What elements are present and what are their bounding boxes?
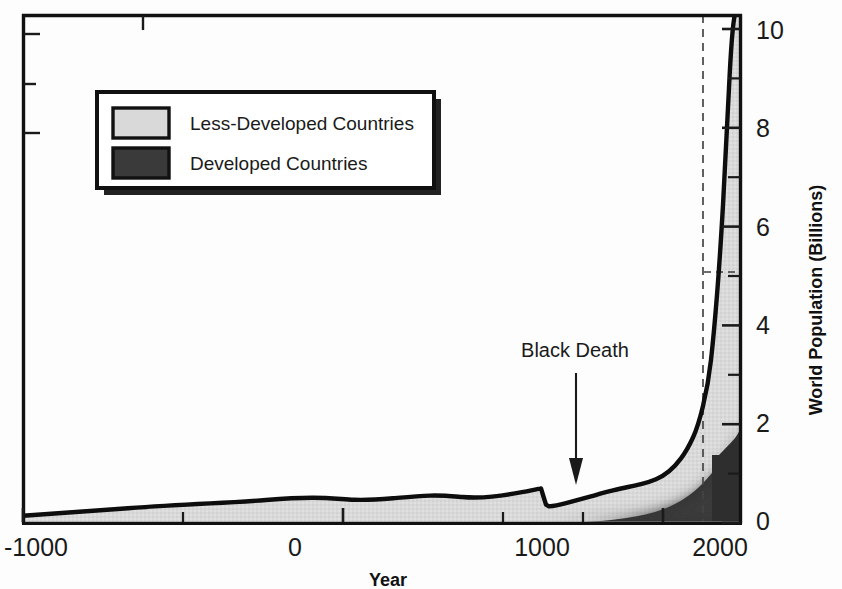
x-tick-label-0: -1000 xyxy=(4,533,68,561)
y-tick-label-6: 6 xyxy=(756,213,770,241)
population-chart-figure: -1000 0 1000 2000 0 2 4 6 8 10 Year Worl… xyxy=(0,0,842,589)
annotation-black-death: Black Death xyxy=(521,339,629,485)
y-tick-label-2: 2 xyxy=(756,409,770,437)
y-tick-label-0: 0 xyxy=(756,507,770,535)
chart-canvas: -1000 0 1000 2000 0 2 4 6 8 10 Year Worl… xyxy=(0,0,842,589)
y-tick-label-8: 8 xyxy=(756,114,770,142)
legend-swatch-developed xyxy=(113,148,169,178)
annotation-label: Black Death xyxy=(521,339,629,361)
x-tick-label-3: 2000 xyxy=(692,533,748,561)
x-tick-label-2: 1000 xyxy=(514,533,570,561)
series-block-developed xyxy=(712,455,742,523)
x-tick-label-1: 0 xyxy=(288,533,302,561)
y-axis-ticks-left xyxy=(24,34,40,133)
population-curve xyxy=(23,14,735,516)
y-axis-title: World Population (Billions) xyxy=(806,185,826,416)
annotation-arrow-head xyxy=(569,458,583,485)
legend-swatch-less-developed xyxy=(113,108,169,138)
legend-item-developed[interactable]: Developed Countries xyxy=(113,148,367,178)
legend-label-less-developed: Less-Developed Countries xyxy=(190,113,414,134)
y-tick-label-4: 4 xyxy=(756,311,770,339)
legend-item-less-developed[interactable]: Less-Developed Countries xyxy=(113,108,414,138)
x-axis-title: Year xyxy=(369,570,407,589)
legend: Less-Developed Countries Developed Count… xyxy=(97,92,441,195)
y-tick-label-10: 10 xyxy=(756,16,784,44)
legend-label-developed: Developed Countries xyxy=(190,153,367,174)
